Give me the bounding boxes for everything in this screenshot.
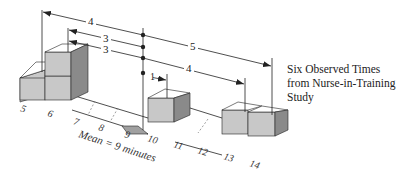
deviation-label-13: 4 [186, 62, 192, 74]
tick-10: 10 [146, 132, 159, 146]
tick-12: 12 [196, 144, 209, 158]
deviation-label-6b: 3 [103, 43, 109, 55]
block-value-6-lower [45, 76, 71, 100]
block-value-10 [148, 89, 190, 122]
caption-line-3: Study [287, 90, 407, 104]
tick-14: 14 [248, 157, 261, 171]
tick-7: 7 [72, 115, 81, 127]
tick-6: 6 [46, 107, 54, 119]
deviation-label-5: 4 [88, 15, 94, 27]
caption-line-1: Six Observed Times [287, 62, 407, 76]
tick-8: 8 [97, 121, 105, 133]
figure-caption: Six Observed Times from Nurse-in-Trainin… [287, 62, 407, 104]
tick-5: 5 [19, 102, 27, 114]
tick-13: 13 [222, 150, 235, 164]
caption-line-2: from Nurse-in-Training [287, 76, 407, 90]
deviation-label-10: 1 [150, 71, 155, 82]
tick-11: 11 [172, 138, 184, 151]
deviation-label-14: 5 [190, 40, 196, 52]
block-value-14 [248, 106, 288, 136]
tick-9: 9 [123, 128, 131, 140]
